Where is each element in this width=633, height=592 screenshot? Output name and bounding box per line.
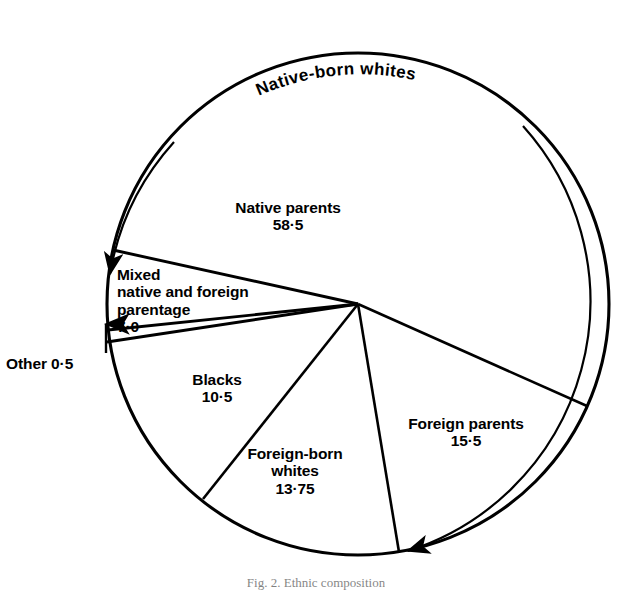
slice-label-foreign-born-whites: Foreign-born whites 13·75: [247, 445, 342, 497]
slice-label-foreign-born-line2: whites: [247, 462, 342, 479]
slice-label-foreign-parents: Foreign parents 15·5: [408, 415, 524, 450]
figure-caption: Fig. 2. Ethnic composition: [247, 575, 385, 591]
slice-label-blacks-name: Blacks: [192, 371, 241, 388]
slice-label-blacks-value: 10·5: [192, 388, 241, 405]
slice-label-mixed-line2: native and foreign: [117, 283, 249, 300]
pie-chart-figure: Native-born whites Native parents 58·5 M…: [0, 0, 633, 592]
slice-label-foreign-parents-value: 15·5: [408, 432, 524, 449]
slice-label-mixed-line3: parentage: [117, 301, 249, 318]
slice-label-foreign-parents-name: Foreign parents: [408, 415, 524, 432]
slice-label-other: Other 0·5: [6, 355, 73, 372]
slice-label-native-parents-name: Native parents: [235, 199, 340, 216]
slice-label-blacks: Blacks 10·5: [192, 371, 241, 406]
slice-label-foreign-born-value: 13·75: [247, 480, 342, 497]
slice-label-mixed-value: 7·0: [117, 318, 249, 335]
slice-label-mixed-parentage: Mixed native and foreign parentage 7·0: [117, 266, 249, 335]
slice-label-other-text: Other 0·5: [6, 355, 73, 372]
slice-label-foreign-born-line1: Foreign-born: [247, 445, 342, 462]
slice-label-native-parents-value: 58·5: [235, 216, 340, 233]
pie-chart-canvas: Native-born whites: [0, 0, 633, 592]
slice-label-native-parents: Native parents 58·5: [235, 199, 340, 234]
slice-label-mixed-line1: Mixed: [117, 266, 249, 283]
